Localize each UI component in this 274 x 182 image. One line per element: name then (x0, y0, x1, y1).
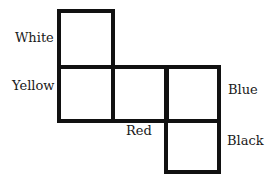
face-blue (164, 65, 221, 123)
label-yellow: Yellow (12, 78, 54, 93)
face-yellow (57, 65, 115, 123)
face-red (111, 65, 169, 123)
face-white (57, 9, 115, 69)
face-black (164, 119, 221, 174)
label-black: Black (227, 133, 264, 148)
label-white: White (15, 30, 54, 45)
label-blue: Blue (228, 82, 258, 97)
label-red: Red (126, 123, 152, 138)
